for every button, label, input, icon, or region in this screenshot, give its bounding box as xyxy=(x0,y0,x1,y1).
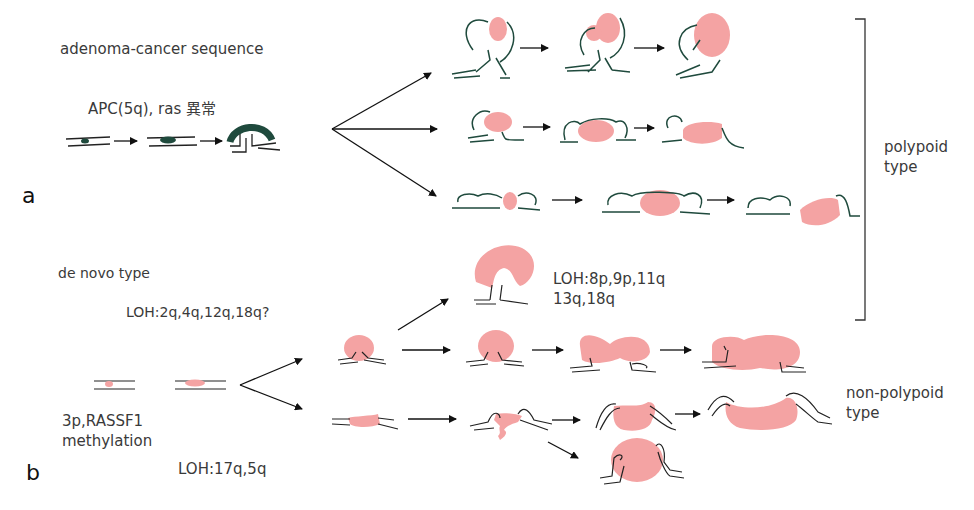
sessile-polyp-stage-3 xyxy=(746,195,860,225)
sessile-polyp-stage-2 xyxy=(602,190,710,216)
de-novo-flat-stage-3 xyxy=(596,402,676,431)
de-novo-stage-1 xyxy=(94,381,135,389)
de-novo-polypoid-stage-4 xyxy=(702,335,806,372)
pedunculated-polyp-stage-1 xyxy=(452,17,514,78)
semipedunculated-polyp-stage-3 xyxy=(662,116,744,148)
de-novo-flat-stage-3b xyxy=(600,438,684,484)
arrow-icon xyxy=(398,299,448,330)
de-novo-flat-stage-1 xyxy=(332,414,398,429)
de-novo-pedunculated-cancer xyxy=(474,245,534,304)
adenoma-stage-1 xyxy=(66,137,110,146)
pedunculated-polyp-stage-3 xyxy=(676,13,730,78)
branch-arrows-b xyxy=(240,359,302,409)
de-novo-polypoid-stage-2 xyxy=(466,330,524,366)
de-novo-polypoid-stage-3 xyxy=(570,335,656,372)
arrow-icon xyxy=(548,442,578,458)
de-novo-flat-stage-2 xyxy=(470,409,552,440)
branch-arrows-a xyxy=(332,73,437,196)
de-novo-flat-stage-4 xyxy=(708,393,832,430)
semipedunculated-polyp-stage-1 xyxy=(468,111,524,142)
de-novo-stage-2 xyxy=(175,380,226,390)
adenoma-stage-3 xyxy=(230,127,280,152)
polypoid-bracket xyxy=(855,19,865,320)
diagram-canvas xyxy=(0,0,974,510)
de-novo-polypoid-stage-1 xyxy=(338,335,386,364)
semipedunculated-polyp-stage-2 xyxy=(560,119,636,142)
adenoma-stage-2 xyxy=(147,137,197,147)
sessile-polyp-stage-1 xyxy=(452,192,540,210)
pedunculated-polyp-stage-2 xyxy=(565,13,630,72)
